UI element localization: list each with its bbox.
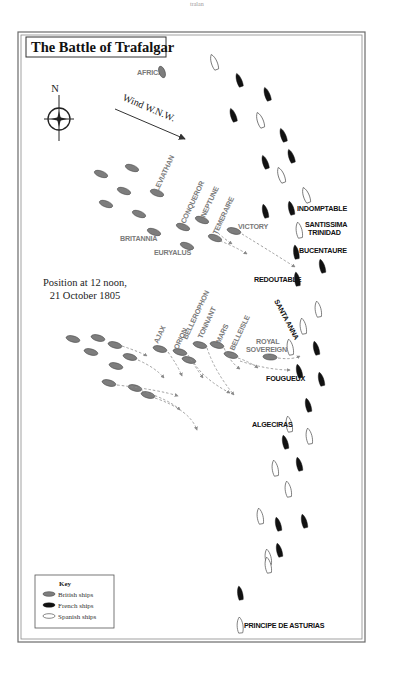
label-santa-anna: SANTA ANNA [272,298,301,341]
label-britannia: BRITANNIA [120,234,157,243]
label-algeciras: ALGECIRAS [252,420,293,429]
label-redoutable: REDOUTABLE [254,275,302,284]
label-euryalus: EURYALUS [154,248,191,257]
label-victory: VICTORY [238,222,269,231]
wind-label: Wind W.N.W. [121,92,177,124]
label-royal-sovereign-2: SOVEREIGN [246,345,287,354]
label-bucentaure: BUCENTAURE [299,246,347,255]
position-caption-line2: 21 October 1805 [50,290,121,301]
compass-north-label: N [51,83,59,94]
position-caption-line1: Position at 12 noon, [43,277,127,288]
lee-column-british [65,333,277,399]
label-ajax: AJAX [152,324,168,345]
page-header-fragment: tralan [190,1,204,7]
label-principe-de-asturias: PRINCIPE DE ASTURIAS [244,621,325,630]
map-title: The Battle of Trafalgar [31,39,175,55]
key-spanish: Spanish ships [58,613,97,621]
key-title: Key [59,580,72,588]
compass-rose-icon: N [44,83,74,141]
key-french: French ships [58,602,94,610]
label-santissima-2: TRINIDAD [308,228,341,237]
british-ship-icon [43,592,55,597]
french-ship-icon [43,603,55,608]
trafalgar-map: tralan The Battle of Trafalgar AFRICA N … [0,0,405,673]
label-leviathan: LEVIATHAN [152,154,177,193]
label-fougueux: FOUGUEUX [266,374,306,383]
label-mars: MARS [214,322,231,345]
key-british: British ships [58,591,93,599]
spanish-ship-icon [43,614,55,619]
map-key: Key British ships French ships Spanish s… [35,575,114,628]
label-indomptable: INDOMPTABLE [297,204,347,213]
